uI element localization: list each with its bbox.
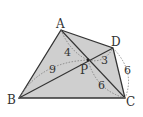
label-c: C: [126, 95, 135, 109]
quadrilateral-abcd: [19, 30, 125, 98]
geometry-diagram: A B C D P 4 9 3 6 6: [0, 0, 143, 117]
label-b: B: [7, 93, 16, 107]
label-d: D: [111, 35, 121, 49]
label-p: P: [80, 63, 88, 77]
length-ap: 4: [64, 46, 71, 59]
point-p: [87, 59, 90, 62]
length-dp: 3: [101, 54, 108, 67]
length-bp: 9: [49, 63, 56, 76]
length-dc: 6: [124, 64, 131, 77]
length-cp: 6: [98, 79, 105, 92]
label-a: A: [55, 17, 65, 31]
